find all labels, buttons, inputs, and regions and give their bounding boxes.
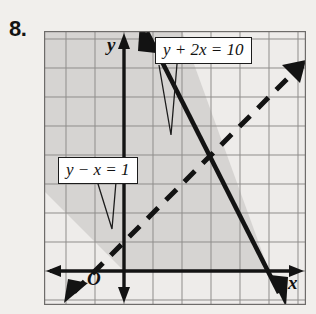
callout-upper-text: y + 2x = 10 (163, 40, 244, 59)
callout-lower-text: y − x = 1 (66, 160, 130, 179)
problem-number: 8. (9, 16, 26, 42)
figure-root: 8. (0, 0, 316, 314)
origin-label: O (87, 268, 101, 290)
x-axis-label: x (288, 272, 298, 294)
y-axis-label: y (107, 34, 115, 56)
callout-equation-upper: y + 2x = 10 (155, 37, 252, 64)
callout-equation-lower: y − x = 1 (58, 157, 138, 184)
